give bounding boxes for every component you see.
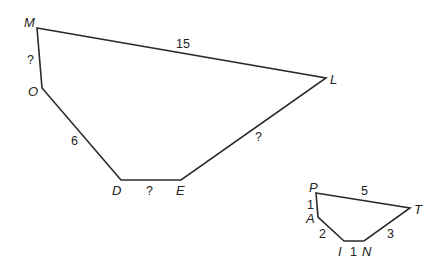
vertex-label-i: I xyxy=(338,244,342,259)
similar-polygons-diagram: M L E D O 15 ? ? 6 ? P T N I A 5 3 1 2 1 xyxy=(0,0,445,269)
vertex-label-l: L xyxy=(330,72,337,87)
side-label-le: ? xyxy=(255,130,262,144)
side-label-ml: 15 xyxy=(176,37,190,51)
vertex-label-t: T xyxy=(414,202,423,217)
large-polygon-mledo: M L E D O 15 ? ? 6 ? xyxy=(24,15,337,198)
vertex-label-e: E xyxy=(176,183,185,198)
side-label-pt: 5 xyxy=(361,184,368,198)
side-label-do: 6 xyxy=(71,134,78,148)
vertex-label-a: A xyxy=(305,211,315,226)
side-label-ap: 1 xyxy=(307,198,314,212)
side-label-om: ? xyxy=(27,53,34,67)
side-label-ia: 2 xyxy=(319,227,326,241)
polygon-ptnia-outline xyxy=(316,193,410,241)
side-label-ed: ? xyxy=(146,184,153,198)
small-polygon-ptnia: P T N I A 5 3 1 2 1 xyxy=(305,180,423,259)
vertex-label-o: O xyxy=(28,84,38,99)
side-label-tn: 3 xyxy=(387,227,394,241)
vertex-label-d: D xyxy=(112,183,121,198)
vertex-label-m: M xyxy=(24,15,35,30)
vertex-label-p: P xyxy=(309,180,318,195)
vertex-label-n: N xyxy=(362,244,372,259)
side-label-ni: 1 xyxy=(350,245,357,259)
